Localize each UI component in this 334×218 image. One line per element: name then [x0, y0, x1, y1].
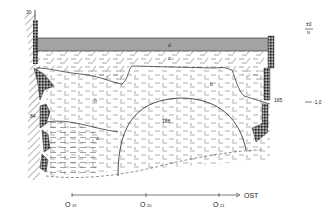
- elevation-zero: ±0: [306, 21, 312, 27]
- axis-marker-20: O: [140, 201, 146, 208]
- svg-text:21: 21: [220, 203, 225, 208]
- label-84: 84: [30, 113, 36, 119]
- label-188: 188: [162, 118, 171, 124]
- right-stones: [268, 36, 274, 68]
- svg-text:19: 19: [72, 203, 77, 208]
- axis-direction-ost: OST: [244, 192, 259, 199]
- label-b-left: b: [94, 97, 97, 103]
- label-30: 30: [26, 9, 32, 15]
- section-drawing: 30 84 165 188 d c b b a ±0 N -1,0 OST O …: [0, 0, 334, 218]
- axis-marker-19: O: [65, 201, 71, 208]
- label-b-right: b: [210, 81, 213, 87]
- label-d: d: [168, 42, 171, 48]
- label-165: 165: [274, 97, 283, 103]
- axis-marker-21: O: [213, 201, 219, 208]
- layer-d: [36, 38, 272, 51]
- elevation-zero-sub: N: [307, 30, 310, 35]
- elevation-minus: -1,0: [313, 99, 322, 105]
- label-a: a: [96, 135, 99, 141]
- svg-text:20: 20: [147, 203, 152, 208]
- layer-a: [46, 122, 100, 176]
